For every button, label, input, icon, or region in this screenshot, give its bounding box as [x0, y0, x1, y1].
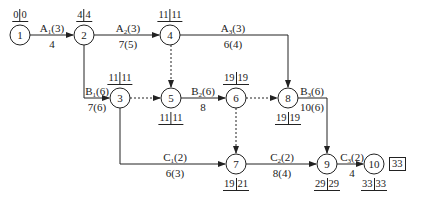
node-4-label: 4: [167, 29, 173, 41]
node-7-label: 7: [233, 158, 239, 170]
activity-b2-duration: 8: [200, 101, 206, 113]
activity-a2-duration: 7(5): [119, 38, 137, 50]
node-10-label: 10: [369, 158, 380, 170]
activity-c2-duration: 8(4): [273, 167, 291, 179]
activity-b2-name: B2(6): [191, 85, 215, 101]
node-4-times: 1111: [157, 9, 182, 22]
activity-a1-duration: 4: [49, 38, 55, 50]
node-6-times: 1919: [223, 72, 249, 85]
node-6-label: 6: [233, 92, 239, 104]
activity-a2-name: A2(3): [116, 22, 140, 38]
node-5-label: 5: [168, 92, 174, 104]
activity-a1-name: A1(3): [40, 22, 64, 38]
node-3-label: 3: [117, 92, 123, 104]
node-2-times: 44: [76, 9, 92, 22]
node-2-label: 2: [81, 29, 87, 41]
node-9-label: 9: [324, 158, 330, 170]
activity-b3-name: B3(6): [300, 85, 324, 101]
activity-c1-duration: 6(3): [166, 167, 184, 179]
activity-b3-duration: 10(6): [300, 101, 324, 113]
node-10-times: 3333: [361, 178, 387, 191]
node-3-times: 1111: [107, 72, 132, 85]
activity-a3-duration: 6(4): [224, 38, 242, 50]
node-1-label: 1: [17, 29, 23, 41]
node-8-times: 1919: [275, 112, 301, 125]
activity-a3-name: A3(3): [221, 22, 245, 38]
activity-c3-name: C3(2): [340, 151, 364, 167]
node-9-times: 2929: [314, 178, 340, 191]
activity-b1-duration: 7(6): [88, 101, 106, 113]
node-5-times: 1111: [158, 112, 183, 125]
activity-c1-name: C1(2): [163, 151, 187, 167]
activity-b1-name: B1(6): [85, 85, 109, 101]
node-8-label: 8: [285, 92, 291, 104]
node-7-times: 1921: [223, 178, 249, 191]
activity-c3-duration: 4: [349, 167, 355, 179]
project-duration-box: 33: [389, 157, 406, 171]
activity-c2-name: C2(2): [270, 151, 294, 167]
node-1-times: 00: [12, 9, 28, 22]
